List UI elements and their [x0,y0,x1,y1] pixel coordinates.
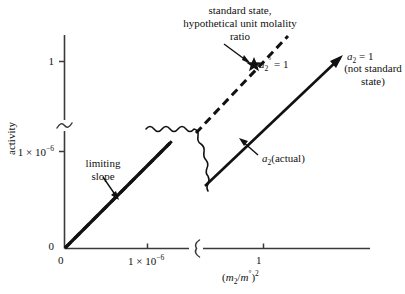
standard-state-line-3: ratio [230,30,250,42]
limiting-slope-line-1: limiting [86,157,121,169]
not-standard-state-note: (not standardstate) [344,62,402,88]
x-axis-break-symbol [196,240,200,257]
standard-state-line-1: standard state, [209,4,272,16]
y-axis-break-symbol [57,123,72,128]
y-axis-tick-label-zero: 0 [40,240,54,253]
limiting-slope-annotation: limitingslope [74,157,132,183]
y-axis-tick-label-one: 1 [36,55,54,68]
actual-activity-annotation: a2(actual) [262,152,305,168]
not-standard-line-2: state) [361,75,385,87]
standard-state-activity-label: a2° = 1 [259,57,288,74]
standard-state-leader-arrow [224,44,251,64]
standard-state-annotation: standard state,hypothetical unit molalit… [150,4,330,43]
y-axis-title: activity [5,108,18,168]
x-axis-tick-label-zero: 0 [58,254,64,267]
limiting-slope-line-2: slope [91,170,114,182]
x-axis-tick-label-one: 1 [256,254,262,267]
activity-vs-molality-figure: 1 1 × 10−6 0 0 1 × 10−6 1 activity (m2/m… [0,0,405,294]
chart-canvas [0,0,405,294]
standard-state-line-2: hypothetical unit molality [183,17,297,29]
limiting-slope-dashed-upper [196,36,288,133]
x-axis-tick-label-micro: 1 × 10−6 [128,254,164,268]
not-standard-line-1: (not standard [344,62,402,74]
x-axis-title: (m2/m°)2 [222,270,259,287]
